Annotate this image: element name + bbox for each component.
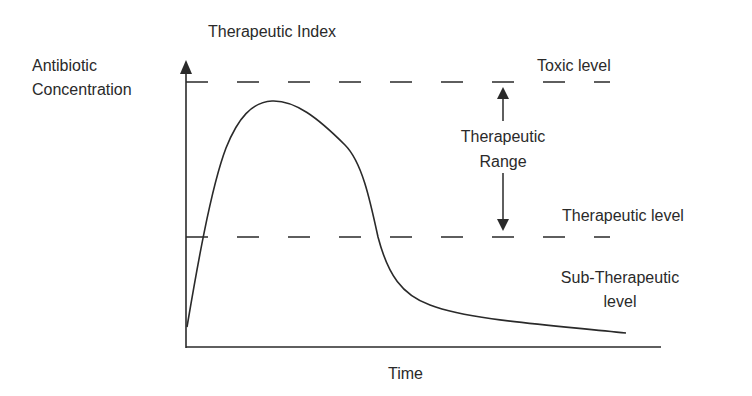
therapeutic-range-label-line2: Range: [448, 152, 558, 171]
therapeutic-level-label: Therapeutic level: [562, 206, 684, 225]
toxic-level-label: Toxic level: [537, 56, 611, 75]
y-axis-label-line2: Concentration: [32, 80, 132, 99]
range-arrow-down-icon: [497, 219, 509, 231]
y-axis-label-line1: Antibiotic: [32, 56, 97, 75]
chart-canvas: [0, 0, 752, 396]
sub-therapeutic-label-line1: Sub-Therapeutic: [550, 268, 690, 287]
chart-title: Therapeutic Index: [208, 22, 336, 41]
range-arrow-up-icon: [497, 87, 509, 99]
x-axis-label: Time: [388, 364, 423, 383]
y-axis-arrow-icon: [180, 60, 192, 74]
sub-therapeutic-label-line2: level: [550, 292, 690, 311]
therapeutic-range-label-line1: Therapeutic: [448, 127, 558, 146]
